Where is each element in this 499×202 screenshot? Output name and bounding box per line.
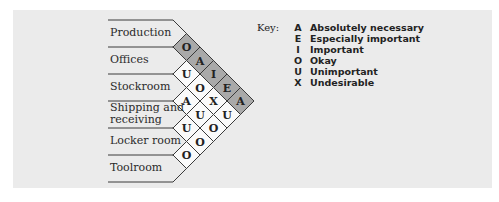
department-label: receiving <box>110 114 162 126</box>
key-item: EEspecially important <box>292 33 420 44</box>
relationship-code: O <box>182 149 192 162</box>
relationship-code: E <box>223 82 231 95</box>
key-item: XUndesirable <box>292 77 374 88</box>
key-title: Key: <box>257 22 279 33</box>
key-label: Especially important <box>310 33 420 44</box>
key-code: I <box>292 44 304 55</box>
relationship-code: U <box>222 109 232 122</box>
key-label: Okay <box>310 55 337 66</box>
key-code: U <box>292 66 304 77</box>
relationship-chart: OAIEAUOXUAUOUOO <box>0 0 499 202</box>
relationship-code: I <box>211 68 216 81</box>
department-label: Stockroom <box>110 81 170 93</box>
key-label: Unimportant <box>310 66 378 77</box>
relationship-code: O <box>195 136 205 149</box>
key-label: Important <box>310 44 364 55</box>
relationship-code: A <box>235 95 245 108</box>
key-code: A <box>292 22 304 33</box>
relationship-code: O <box>182 41 192 54</box>
key-code: E <box>292 33 304 44</box>
key-label: Absolutely necessary <box>310 22 424 33</box>
relationship-code: O <box>209 122 219 135</box>
department-label: Locker room <box>110 135 181 147</box>
relationship-code: U <box>195 109 205 122</box>
key-label: Undesirable <box>310 77 374 88</box>
department-label: Toolroom <box>110 162 162 174</box>
relationship-code: A <box>195 55 205 68</box>
department-label: Production <box>110 27 171 39</box>
relationship-code: U <box>182 122 192 135</box>
relationship-code: X <box>209 95 218 108</box>
key-item: UUnimportant <box>292 66 378 77</box>
department-label: Shipping and <box>110 102 184 114</box>
relationship-code: U <box>182 68 192 81</box>
department-label: Offices <box>110 54 149 66</box>
key-item: OOkay <box>292 55 337 66</box>
key-item: IImportant <box>292 44 364 55</box>
key-code: O <box>292 55 304 66</box>
relationship-code: O <box>195 82 205 95</box>
key-code: X <box>292 77 304 88</box>
key-item: AAbsolutely necessary <box>292 22 424 33</box>
